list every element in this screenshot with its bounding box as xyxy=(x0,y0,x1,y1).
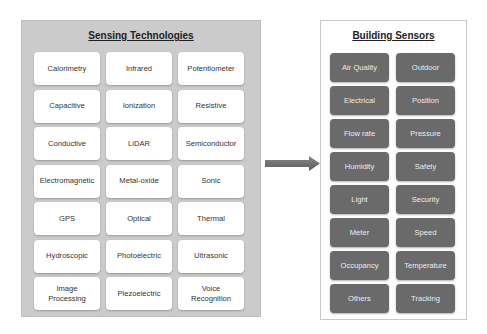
tech-tile-capacitive: Capacitive xyxy=(34,90,100,123)
sensor-tile-tracking: Tracking xyxy=(396,284,455,313)
tech-tile-hydroscopic: Hydroscopic xyxy=(34,240,100,273)
sensing-technologies-title: Sensing Technologies xyxy=(22,30,260,41)
tech-tile-thermal: Thermal xyxy=(178,202,244,235)
tech-tile-label: Image Processing xyxy=(42,284,92,303)
sensor-tile-label: Outdoor xyxy=(412,63,439,72)
sensor-tile-label: Pressure xyxy=(410,129,440,138)
tech-tile-label: Conductive xyxy=(48,139,86,148)
tech-tile-label: Resistive xyxy=(196,101,227,110)
tech-tile-optical: Optical xyxy=(106,202,172,235)
sensor-tile-label: Position xyxy=(412,96,439,105)
sensor-tile-electrical: Electrical xyxy=(330,86,389,115)
sensor-tile-light: Light xyxy=(330,185,389,214)
tech-tile-piezoelectric: Piezoelectric xyxy=(106,277,172,310)
tech-tile-semiconductor: Semiconductor xyxy=(178,127,244,160)
sensor-tile-humidity: Humidity xyxy=(330,152,389,181)
tech-tile-label: Electromagnetic xyxy=(40,176,94,185)
sensor-tile-outdoor: Outdoor xyxy=(396,53,455,82)
tech-tile-label: Photoelectric xyxy=(117,251,161,260)
tech-tile-label: Potentiometer xyxy=(187,64,234,73)
sensor-tile-position: Position xyxy=(396,86,455,115)
sensor-tile-label: Temperature xyxy=(404,261,447,270)
tech-tile-photoelectric: Photoelectric xyxy=(106,240,172,273)
sensor-tile-label: Security xyxy=(412,195,439,204)
sensor-tile-label: Electrical xyxy=(344,96,375,105)
tech-tile-lidar: LiDAR xyxy=(106,127,172,160)
sensor-tile-label: Air Quality xyxy=(342,63,377,72)
tech-tile-label: Calorimetry xyxy=(48,64,87,73)
tech-tile-label: Voice Recognition xyxy=(186,284,236,303)
right-arrow-icon xyxy=(265,156,321,171)
sensor-tile-safety: Safety xyxy=(396,152,455,181)
sensor-tile-label: Meter xyxy=(350,228,369,237)
tech-tile-label: Ionization xyxy=(123,101,156,110)
tech-tile-label: Capacitive xyxy=(49,101,84,110)
tech-tile-label: Optical xyxy=(127,214,151,223)
sensing-technologies-panel: Sensing Technologies CalorimetryInfrared… xyxy=(21,20,261,317)
tech-tile-label: Infrared xyxy=(126,64,152,73)
sensor-tile-label: Speed xyxy=(415,228,437,237)
tech-tile-image-processing: Image Processing xyxy=(34,277,100,310)
sensor-tile-label: Occupancy xyxy=(341,261,379,270)
sensor-tile-others: Others xyxy=(330,284,389,313)
sensor-tile-label: Tracking xyxy=(411,294,440,303)
sensor-tile-pressure: Pressure xyxy=(396,119,455,148)
tech-tile-calorimetry: Calorimetry xyxy=(34,52,100,85)
tech-tile-label: GPS xyxy=(59,214,75,223)
sensor-tile-label: Light xyxy=(351,195,367,204)
tech-tile-label: Hydroscopic xyxy=(46,251,88,260)
sensor-tile-occupancy: Occupancy xyxy=(330,251,389,280)
tech-tile-potentiometer: Potentiometer xyxy=(178,52,244,85)
sensor-tile-security: Security xyxy=(396,185,455,214)
tech-tile-infrared: Infrared xyxy=(106,52,172,85)
tech-tile-label: LiDAR xyxy=(128,139,150,148)
tech-tile-sonic: Sonic xyxy=(178,165,244,198)
tech-tile-metal-oxide: Metal-oxide xyxy=(106,165,172,198)
sensor-tile-meter: Meter xyxy=(330,218,389,247)
tech-tile-label: Sonic xyxy=(202,176,221,185)
tech-tile-label: Semiconductor xyxy=(186,139,237,148)
tech-tile-gps: GPS xyxy=(34,202,100,235)
sensor-tile-label: Others xyxy=(348,294,371,303)
tech-tile-conductive: Conductive xyxy=(34,127,100,160)
sensor-tile-flow-rate: Flow rate xyxy=(330,119,389,148)
tech-tile-label: Ultrasonic xyxy=(194,251,228,260)
tech-tile-resistive: Resistive xyxy=(178,90,244,123)
building-sensors-grid: Air QualityOutdoorElectricalPositionFlow… xyxy=(330,53,455,313)
tech-tile-voice-recognition: Voice Recognition xyxy=(178,277,244,310)
tech-tile-label: Piezoelectric xyxy=(117,289,160,298)
building-sensors-panel: Building Sensors Air QualityOutdoorElect… xyxy=(320,20,467,320)
sensor-tile-label: Humidity xyxy=(345,162,375,171)
tech-tile-ultrasonic: Ultrasonic xyxy=(178,240,244,273)
tech-tile-ionization: Ionization xyxy=(106,90,172,123)
sensor-tile-label: Safety xyxy=(415,162,437,171)
tech-tile-electromagnetic: Electromagnetic xyxy=(34,165,100,198)
building-sensors-title: Building Sensors xyxy=(321,30,466,41)
sensor-tile-speed: Speed xyxy=(396,218,455,247)
tech-tile-label: Metal-oxide xyxy=(119,176,158,185)
sensor-tile-temperature: Temperature xyxy=(396,251,455,280)
tech-tile-label: Thermal xyxy=(197,214,225,223)
sensing-technologies-grid: CalorimetryInfraredPotentiometerCapaciti… xyxy=(34,52,244,310)
sensor-tile-label: Flow rate xyxy=(344,129,375,138)
sensor-tile-air-quality: Air Quality xyxy=(330,53,389,82)
